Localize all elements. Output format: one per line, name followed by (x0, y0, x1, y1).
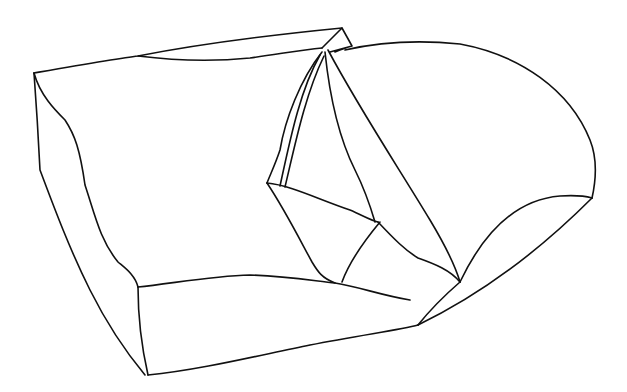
wedge-left-double-2 (285, 56, 324, 187)
wedge-base-left (267, 183, 378, 222)
right-dome-bottom-curve (460, 196, 592, 282)
wedge-left-double-1 (280, 55, 320, 186)
front-bottom-edge (148, 325, 418, 375)
drawing-canvas (0, 0, 627, 392)
wedge-center-ridge (325, 52, 375, 222)
right-base-inner (418, 282, 460, 325)
wedge-right-edge (328, 50, 460, 282)
top-left-inner-edge (138, 48, 322, 60)
left-side (34, 73, 145, 375)
block-drawing (0, 0, 627, 392)
right-base-edge (418, 198, 592, 325)
left-inner-side (34, 73, 138, 287)
top-notch (322, 28, 352, 52)
wedge-lower-v-left (267, 183, 335, 283)
front-corner (138, 287, 148, 375)
right-dome-top (345, 42, 596, 198)
front-top-edge (138, 275, 410, 300)
wedge-outer-left (267, 52, 322, 183)
shaded-facet-right (325, 48, 460, 282)
wedge-lower-v-right (342, 222, 380, 282)
